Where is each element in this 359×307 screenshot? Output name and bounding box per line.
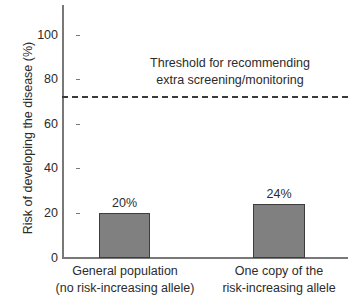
bar-chart-figure: Risk of developing the disease (%) 100 8… bbox=[0, 0, 359, 307]
y-tick-mark bbox=[76, 213, 80, 214]
bar-value-label-2: 24% bbox=[253, 188, 305, 201]
threshold-annotation-line-2: extra screening/monitoring bbox=[118, 72, 342, 89]
threshold-dashed-line bbox=[62, 96, 348, 98]
category-label-2-line-1: One copy of the bbox=[213, 263, 345, 280]
y-tick-mark bbox=[76, 124, 80, 125]
category-label-2: One copy of the risk-increasing allele bbox=[213, 263, 345, 297]
threshold-annotation-line-1: Threshold for recommending bbox=[118, 55, 342, 72]
y-tick-mark bbox=[76, 168, 80, 169]
threshold-annotation: Threshold for recommending extra screeni… bbox=[118, 55, 342, 89]
y-axis-line bbox=[62, 5, 64, 258]
bar-one-copy-allele bbox=[253, 204, 305, 258]
category-label-1: General population (no risk-increasing a… bbox=[54, 263, 196, 297]
category-label-1-line-2: (no risk-increasing allele) bbox=[54, 280, 196, 297]
bar-general-population bbox=[99, 213, 150, 258]
category-label-1-line-1: General population bbox=[54, 263, 196, 280]
bar-value-label-1: 20% bbox=[99, 197, 150, 210]
category-label-2-line-2: risk-increasing allele bbox=[213, 280, 345, 297]
y-tick-mark bbox=[76, 35, 80, 36]
y-tick-mark bbox=[76, 79, 80, 80]
